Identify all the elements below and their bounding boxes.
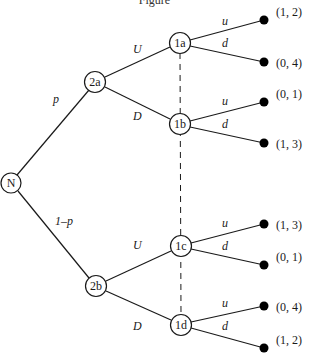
label-1b-d: d (222, 117, 229, 131)
node-n: N (1, 173, 21, 193)
game-tree: N 2a 2b 1a 1b 1c 1d p 1–p U D U D u d u … (0, 0, 309, 355)
label-2a-D: D (132, 109, 142, 123)
terminal-node (260, 344, 269, 353)
payoff-4: (1, 3) (276, 137, 302, 151)
payoff-5: (1, 3) (276, 218, 302, 232)
svg-text:2b: 2b (90, 279, 102, 293)
label-1d-d: d (222, 319, 229, 333)
terminal-node (260, 302, 269, 311)
edge-n-2b (18, 191, 89, 278)
svg-text:1c: 1c (175, 239, 186, 253)
label-1b-u: u (222, 94, 228, 108)
label-2a-U: U (133, 42, 143, 56)
label-p: p (52, 92, 59, 106)
node-2a: 2a (85, 72, 106, 93)
payoff-1: (1, 2) (276, 5, 302, 19)
payoff-2: (0, 4) (276, 56, 302, 70)
payoff-3: (0, 1) (276, 87, 302, 101)
payoff-7: (0, 4) (276, 300, 302, 314)
svg-text:N: N (7, 176, 16, 190)
svg-text:1b: 1b (174, 117, 186, 131)
terminal-node (260, 58, 269, 67)
svg-text:1d: 1d (175, 318, 187, 332)
label-2b-U: U (133, 238, 143, 252)
label-1c-u: u (222, 216, 228, 230)
node-2b: 2b (86, 276, 107, 297)
terminal-node (260, 98, 269, 107)
label-1c-d: d (222, 239, 229, 253)
svg-text:2a: 2a (89, 75, 101, 89)
label-2b-D: D (132, 319, 142, 333)
node-1c: 1c (171, 236, 192, 257)
node-1a: 1a (170, 33, 191, 54)
label-1a-d: d (222, 36, 229, 50)
payoff-8: (1, 2) (276, 333, 302, 347)
label-1-minus-p: 1–p (55, 214, 73, 228)
terminal-node (260, 220, 269, 229)
payoff-6: (0, 1) (276, 250, 302, 264)
terminal-node (260, 16, 269, 25)
terminal-node (260, 139, 269, 148)
edge-2b-1c (106, 251, 171, 281)
node-1b: 1b (170, 114, 191, 135)
label-1a-u: u (222, 14, 228, 28)
svg-text:1a: 1a (174, 36, 186, 50)
node-1d: 1d (171, 315, 192, 336)
terminal-node (260, 261, 269, 270)
edge-2b-1d (106, 291, 171, 320)
label-1d-u: u (222, 296, 228, 310)
information-set-line (180, 53, 181, 315)
